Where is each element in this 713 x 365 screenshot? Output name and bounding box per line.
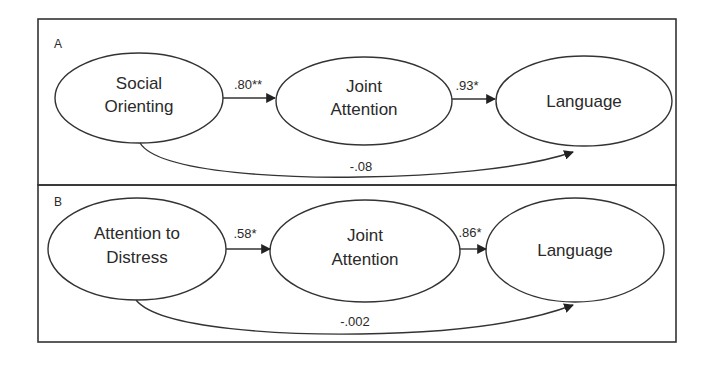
node-label-line-1: Joint: [347, 226, 383, 245]
node-label-line-2: Orienting: [105, 97, 174, 116]
node-label-line-1: Social: [116, 74, 162, 93]
path-diagram: A Social Orienting Joint Attention Langu…: [0, 0, 713, 365]
node-label-line-2: Distress: [106, 248, 167, 267]
node-language: Language: [496, 56, 672, 146]
panel-b: B Attention to Distress Joint Attention …: [38, 185, 676, 342]
node-language: Language: [486, 198, 664, 302]
node-joint-attention: Joint Attention: [270, 200, 460, 302]
node-label-line-1: Language: [546, 92, 622, 111]
edge-label: -.002: [340, 314, 370, 329]
panel-a-label: A: [54, 37, 62, 51]
node-label-line-2: Attention: [331, 250, 398, 269]
panel-b-label: B: [54, 195, 62, 209]
panel-a: A Social Orienting Joint Attention Langu…: [38, 19, 676, 185]
edge-label: .93*: [455, 78, 478, 93]
edge-label: .80**: [234, 77, 262, 92]
node-label-line-1: Attention to: [94, 224, 180, 243]
node-label-line-1: Language: [537, 241, 613, 260]
edge-label: .86*: [458, 225, 481, 240]
node-attention-to-distress: Attention to Distress: [48, 198, 226, 300]
node-label-line-2: Attention: [330, 100, 397, 119]
node-joint-attention: Joint Attention: [276, 57, 452, 145]
edge-label: .58*: [233, 226, 256, 241]
edge-label: -.08: [350, 159, 372, 174]
node-social-orienting: Social Orienting: [55, 53, 223, 143]
node-label-line-1: Joint: [346, 77, 382, 96]
